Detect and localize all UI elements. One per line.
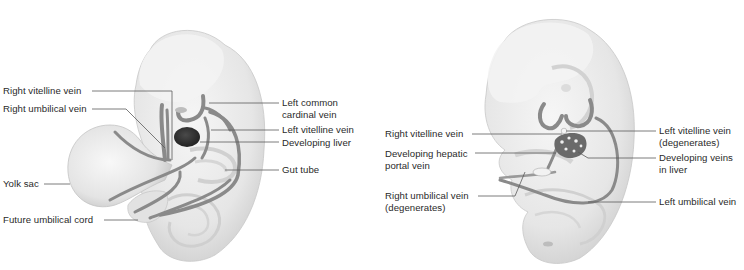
label-left-vitelline-vein-degenerates: Left vitelline vein (degenerates) (659, 125, 731, 148)
label-left-vitelline-vein-early: Left vitelline vein (282, 124, 354, 136)
label-line: Right umbilical vein (385, 190, 469, 202)
label-gut-tube: Gut tube (282, 164, 319, 176)
label-line: (degenerates) (659, 137, 731, 149)
label-line: portal vein (385, 160, 468, 172)
label-line: cardinal vein (282, 109, 338, 121)
label-line: (degenerates) (385, 202, 469, 214)
developing-liver (174, 127, 200, 147)
label-line: Left common (282, 97, 338, 109)
label-right-vitelline-vein-early: Right vitelline vein (3, 85, 81, 97)
label-line: in liver (659, 164, 733, 176)
early-embryo (44, 30, 279, 261)
label-line: Developing hepatic (385, 148, 468, 160)
label-line: Left vitelline vein (659, 125, 731, 137)
embryonic-veins-figure: Right vitelline vein Right umbilical vei… (0, 0, 744, 270)
label-right-vitelline-vein-later: Right vitelline vein (385, 128, 463, 140)
label-developing-veins-in-liver: Developing veins in liver (659, 152, 733, 175)
label-line: Developing veins (659, 152, 733, 164)
label-left-common-cardinal-vein: Left common cardinal vein (282, 97, 338, 120)
label-right-umbilical-vein-early: Right umbilical vein (3, 103, 87, 115)
illustration (0, 0, 744, 270)
label-yolk-sac: Yolk sac (3, 178, 39, 190)
label-developing-liver: Developing liver (282, 137, 351, 149)
later-embryo (472, 19, 656, 263)
label-left-umbilical-vein: Left umbilical vein (659, 196, 736, 208)
label-developing-hepatic-portal-vein: Developing hepatic portal vein (385, 148, 468, 171)
label-future-umbilical-cord: Future umbilical cord (3, 214, 93, 226)
label-right-umbilical-vein-degenerates: Right umbilical vein (degenerates) (385, 190, 469, 213)
